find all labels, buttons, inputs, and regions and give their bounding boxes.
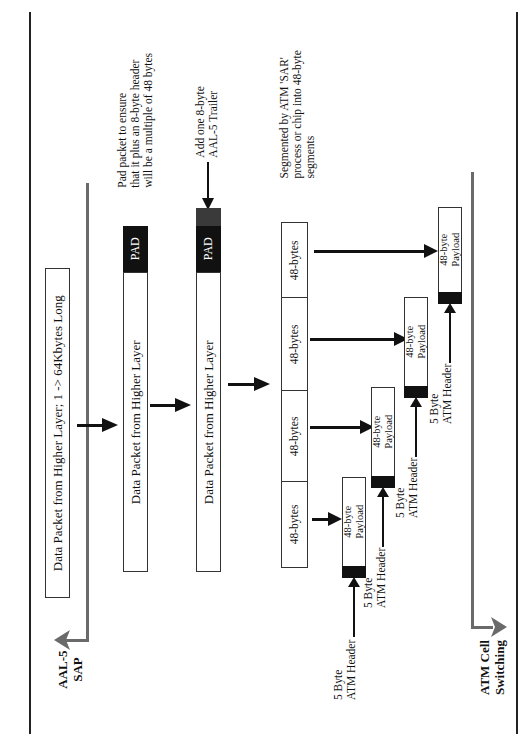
- header-arrow-icon: [410, 397, 422, 407]
- switching-flow-line-horizontal: [471, 626, 493, 629]
- switching-label: ATM CellSwitching: [472, 630, 512, 706]
- cell-header-label: 5 ByteATM Header: [328, 630, 362, 710]
- trailer-note: Add one 8-byteAAL-5 Trailer: [192, 82, 222, 162]
- left-border-line: [29, 12, 31, 734]
- cell-header-label: 5 ByteATM Header: [358, 538, 392, 618]
- sar-note: Segmented by ATM 'SAR'process or chip in…: [272, 48, 322, 180]
- segment-box: 48-bytes: [281, 222, 308, 298]
- sap-label: AAL-5SAP: [52, 640, 88, 700]
- flow-arrow-icon: [175, 398, 191, 412]
- flow-arrow-line: [228, 383, 256, 386]
- flow-arrow-line: [150, 404, 176, 407]
- right-border-line: [516, 12, 518, 734]
- segment-box: 48-bytes: [281, 390, 308, 482]
- padded-packet-box: Data Packet from Higher Layer: [123, 272, 148, 572]
- flow-arrow-icon: [102, 418, 118, 432]
- trailered-packet-box: Data Packet from Higher Layer: [196, 272, 221, 572]
- aal5-trailer-block: [196, 208, 221, 227]
- flow-arrow-line: [77, 424, 103, 427]
- segment-box: 48-bytes: [281, 297, 308, 391]
- header-arrow-icon: [444, 303, 456, 313]
- pad-block: PAD: [123, 226, 148, 272]
- segment-box: 48-bytes: [281, 481, 308, 568]
- pad-note: Pad packet to ensurethat it plus an 8-by…: [112, 40, 158, 200]
- cell-header-label: 5 ByteATM Header: [424, 354, 458, 434]
- segment-arrow-icon: [424, 244, 438, 258]
- header-arrow-icon: [377, 487, 389, 497]
- switching-flow-line: [471, 172, 474, 629]
- segment-arrow-icon: [328, 512, 342, 526]
- trailer-arrow-line: [207, 162, 209, 202]
- cell-header-label: 5 ByteATM Header: [390, 448, 424, 528]
- pad-block: PAD: [196, 226, 221, 272]
- segment-arrow-line: [314, 250, 426, 253]
- original-packet-box: Data Packet from Higher Layer; 1 -> 64Kb…: [45, 268, 70, 598]
- cell-payload-box: 48-bytePayload: [438, 207, 462, 293]
- flow-arrow-icon: [254, 377, 270, 391]
- sap-flow-line: [86, 183, 89, 641]
- segment-arrow-line: [310, 338, 396, 341]
- aal5-diagram: AAL-5SAP ATM CellSwitching Pad packet to…: [0, 0, 529, 756]
- segment-arrow-line: [310, 426, 362, 429]
